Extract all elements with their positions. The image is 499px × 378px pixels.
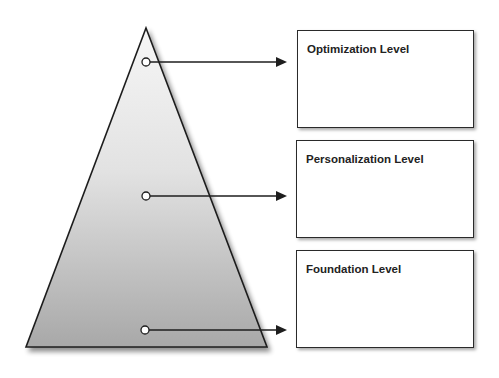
level-title-foundation: Foundation Level xyxy=(306,263,401,275)
level-marker-foundation xyxy=(141,326,149,334)
pyramid-shape xyxy=(26,28,267,347)
arrowhead-icon xyxy=(276,191,287,201)
level-box-foundation: Foundation Level xyxy=(296,250,474,348)
arrowhead-icon xyxy=(276,57,287,67)
arrowhead-icon xyxy=(276,325,287,335)
level-box-optimization: Optimization Level xyxy=(297,30,474,128)
connector-optimization xyxy=(142,57,287,67)
level-title-personalization: Personalization Level xyxy=(306,153,424,165)
level-title-optimization: Optimization Level xyxy=(307,43,409,55)
level-marker-personalization xyxy=(142,192,150,200)
level-box-personalization: Personalization Level xyxy=(296,140,474,238)
level-marker-optimization xyxy=(142,58,150,66)
